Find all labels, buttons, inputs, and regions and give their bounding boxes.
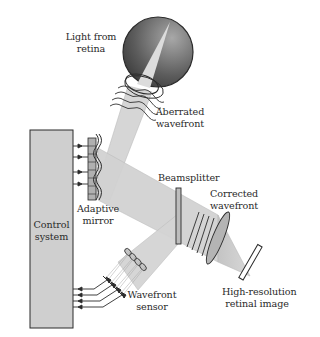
- label-retinal-image: High-resolution retinal image: [222, 286, 292, 310]
- label-line: Wavefront: [127, 289, 177, 301]
- label-line: High-resolution: [222, 286, 292, 298]
- label-line: Aberrated: [155, 106, 205, 118]
- label-line: Control: [30, 219, 73, 231]
- label-line: sensor: [127, 301, 177, 313]
- label-line: wavefront: [210, 200, 258, 212]
- label-line: mirror: [75, 215, 121, 227]
- label-line: Light from: [63, 31, 119, 43]
- label-line: Beamsplitter: [158, 172, 218, 184]
- mirror-control-lines: [73, 144, 89, 186]
- label-adaptive-mirror: Adaptive mirror: [75, 203, 121, 227]
- label-line: system: [30, 231, 73, 243]
- label-wavefront-sensor: Wavefront sensor: [127, 289, 177, 313]
- label-beamsplitter: Beamsplitter: [158, 172, 218, 184]
- beamsplitter: [176, 188, 181, 244]
- label-light-from-retina: Light from retina: [63, 31, 119, 55]
- label-corrected-wavefront: Corrected wavefront: [210, 188, 258, 212]
- label-line: wavefront: [155, 118, 205, 130]
- label-line: Corrected: [210, 188, 258, 200]
- label-line: Adaptive: [75, 203, 121, 215]
- label-line: retinal image: [222, 298, 292, 310]
- label-aberrated-wavefront: Aberrated wavefront: [155, 106, 205, 130]
- label-control-system: Control system: [30, 219, 73, 243]
- label-line: retina: [63, 43, 119, 55]
